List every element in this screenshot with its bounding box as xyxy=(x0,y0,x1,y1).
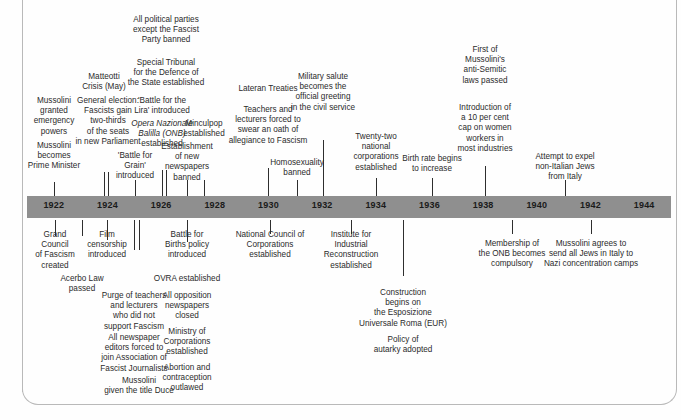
axis-year-1932: 1932 xyxy=(312,200,333,210)
timeline-tick xyxy=(432,178,433,196)
timeline-tick xyxy=(403,220,404,276)
event-label: All political parties except the Fascist… xyxy=(116,15,216,46)
event-label: Institute for Industrial Reconstruction … xyxy=(312,230,390,271)
timeline-tick xyxy=(297,180,298,196)
axis-year-1922: 1922 xyxy=(43,200,64,210)
timeline-axis-bar: 1922192419261928193019321934193619381940… xyxy=(27,196,671,218)
axis-year-1938: 1938 xyxy=(473,200,494,210)
timeline-tick xyxy=(135,180,136,196)
timeline-tick xyxy=(485,166,486,196)
event-label: Establishment of new newspapers banned xyxy=(154,142,220,183)
event-label: 'Battle for the Lira' introduced xyxy=(122,96,202,116)
axis-year-1944: 1944 xyxy=(634,200,655,210)
timeline-tick xyxy=(512,220,513,234)
timeline-tick xyxy=(376,178,377,196)
axis-year-1942: 1942 xyxy=(580,200,601,210)
event-label: Battle for Births policy introduced xyxy=(153,230,221,261)
event-label: Birth rate begins to increase xyxy=(389,154,475,174)
event-label: First of Mussolini's anti-Semitic laws p… xyxy=(452,45,518,86)
axis-year-1928: 1928 xyxy=(204,200,225,210)
timeline-tick xyxy=(104,172,105,196)
timeline-page: Mussolini becomes Prime MinisterMussolin… xyxy=(0,0,681,420)
axis-year-1924: 1924 xyxy=(97,200,118,210)
event-label: Introduction of a 10 per cent cap on wom… xyxy=(447,103,523,154)
event-label: Ministry of Corporations established xyxy=(152,327,222,358)
timeline-tick xyxy=(591,220,592,234)
event-label: Film censorship introduced xyxy=(76,230,138,261)
event-label: Military salute becomes the official gre… xyxy=(278,72,368,113)
timeline-tick xyxy=(54,182,55,196)
axis-year-1934: 1934 xyxy=(365,200,386,210)
event-label: All opposition newspapers closed xyxy=(151,291,223,322)
event-label: OVRA established xyxy=(141,274,233,284)
axis-year-1936: 1936 xyxy=(419,200,440,210)
axis-year-1926: 1926 xyxy=(151,200,172,210)
event-label: Abortion and contraception outlawed xyxy=(152,363,222,394)
axis-year-1930: 1930 xyxy=(258,200,279,210)
event-label: Mussolini agrees to send all Jews in Ita… xyxy=(530,239,652,270)
event-label: Attempt to expel non-Italian Jews from I… xyxy=(521,152,609,183)
event-label: Construction begins on the Esposizione U… xyxy=(344,288,462,329)
event-label: Special Tribunal for the Defence of the … xyxy=(114,58,218,89)
event-label: Homosexuality banned xyxy=(260,158,334,178)
axis-year-1940: 1940 xyxy=(526,200,547,210)
event-label: National Council of Corporations establi… xyxy=(217,230,323,261)
timeline-tick xyxy=(139,220,140,250)
event-label: Policy of autarky adopted xyxy=(358,335,448,355)
